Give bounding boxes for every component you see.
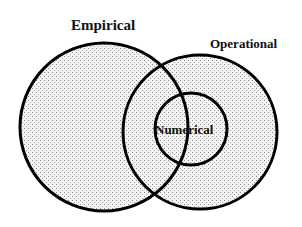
numerical-label: Numerical (155, 122, 214, 137)
venn-diagram: Empirical Operational Numerical (0, 0, 302, 227)
empirical-label: Empirical (71, 17, 135, 33)
operational-label: Operational (210, 36, 278, 51)
